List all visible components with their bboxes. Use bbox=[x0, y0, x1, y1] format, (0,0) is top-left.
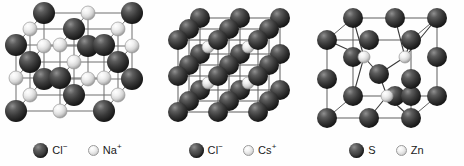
crystal-structures-figure: Cl− Na+ bbox=[0, 0, 464, 166]
lattice-cscl-svg bbox=[155, 2, 310, 132]
cation-sphere-icon bbox=[88, 145, 99, 156]
lattice-zns bbox=[309, 2, 464, 132]
cation-sphere-icon bbox=[396, 145, 407, 156]
legend-entry-cation: Na+ bbox=[88, 145, 122, 156]
legend-zns: S Zn bbox=[309, 136, 464, 164]
lattice-nacl bbox=[0, 2, 155, 132]
legend-label-cation: Na+ bbox=[103, 145, 122, 156]
panel-cscl: Cl− Cs+ bbox=[155, 0, 310, 166]
legend-cscl: Cl− Cs+ bbox=[155, 136, 310, 164]
legend-label-anion: Cl− bbox=[208, 145, 223, 156]
anion-sphere-icon bbox=[33, 143, 48, 158]
lattice-nacl-svg bbox=[0, 2, 155, 132]
lattice-cscl bbox=[155, 2, 310, 132]
anion-sphere-icon bbox=[349, 143, 364, 158]
panel-nacl: Cl− Na+ bbox=[0, 0, 155, 166]
legend-entry-cation: Cs+ bbox=[243, 145, 276, 156]
lattice-zns-svg bbox=[309, 2, 464, 132]
legend-label-anion: S bbox=[368, 145, 375, 156]
legend-label-cation: Cs+ bbox=[258, 145, 276, 156]
anion-sphere-icon bbox=[189, 143, 204, 158]
legend-nacl: Cl− Na+ bbox=[0, 136, 155, 164]
legend-spacer bbox=[223, 150, 243, 151]
legend-entry-anion: Cl− bbox=[33, 143, 67, 158]
legend-entry-anion: Cl− bbox=[189, 143, 223, 158]
legend-spacer bbox=[68, 150, 88, 151]
legend-entry-anion: S bbox=[349, 143, 375, 158]
panel-zns: S Zn bbox=[309, 0, 464, 166]
cation-sphere-icon bbox=[243, 145, 254, 156]
legend-spacer bbox=[376, 150, 396, 151]
legend-label-cation: Zn bbox=[411, 145, 424, 156]
legend-label-anion: Cl− bbox=[52, 145, 67, 156]
legend-entry-cation: Zn bbox=[396, 145, 424, 156]
